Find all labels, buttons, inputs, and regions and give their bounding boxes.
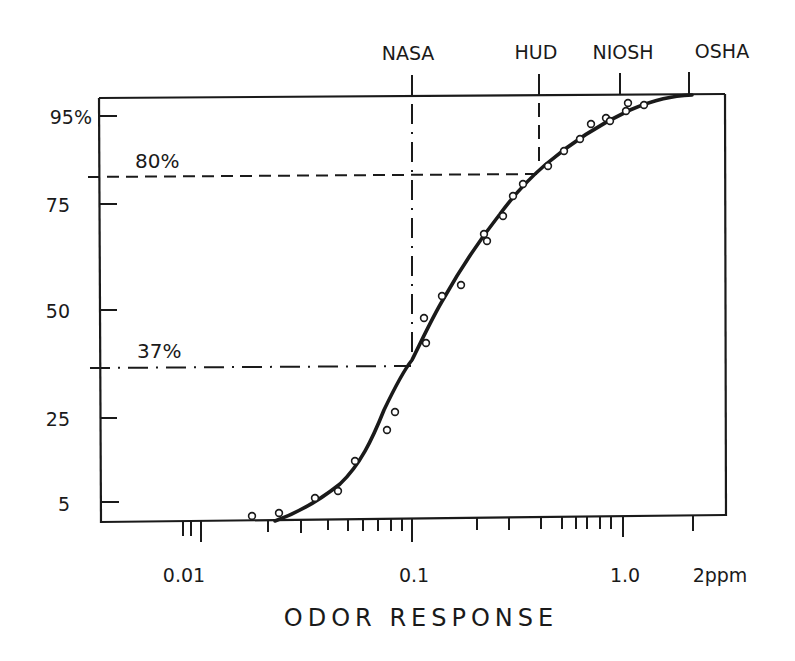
odor-response-chart: 95% 75 50 25 5 0.01 0.1 1.0 2ppm [0,0,795,661]
marker-label-osha: OSHA [695,40,749,62]
y-label-5: 5 [58,493,70,515]
ref-label-37: 37% [137,339,181,363]
x-label-1.0: 1.0 [610,564,640,586]
reference-line-37 [90,104,412,368]
y-label-75: 75 [46,194,70,216]
x-axis-title: ODOR RESPONSE [284,604,558,632]
ref-label-80: 80% [135,149,179,173]
x-label-0.01: 0.01 [163,564,205,586]
y-axis-labels: 95% 75 50 25 5 [46,106,92,515]
y-label-95: 95% [50,106,92,128]
top-marker-ticks [412,72,689,97]
x-label-0.1: 0.1 [399,564,429,586]
marker-label-nasa: NASA [382,42,435,64]
y-axis-ticks [100,116,119,502]
fitted-curve [275,95,692,521]
data-points [249,100,648,520]
x-label-2ppm: 2ppm [693,564,748,586]
x-axis-labels: 0.01 0.1 1.0 2ppm [163,564,748,586]
marker-label-hud: HUD [515,41,558,63]
marker-label-niosh: NIOSH [592,41,653,63]
top-marker-labels: NASA HUD NIOSH OSHA [382,40,749,64]
y-label-50: 50 [46,300,70,322]
y-label-25: 25 [46,408,70,430]
